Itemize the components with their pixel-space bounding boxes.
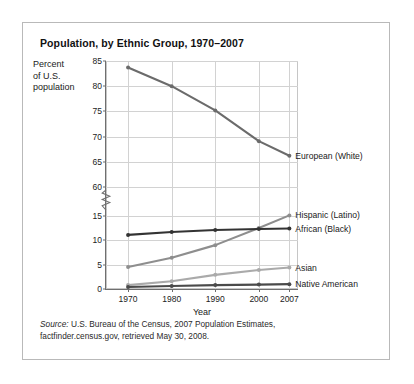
x-tick-label: 1980	[162, 294, 181, 304]
x-axis-spine	[105, 289, 298, 290]
series-line	[128, 268, 289, 286]
x-tick-mark	[289, 289, 290, 292]
y-tick-label: 80	[93, 81, 102, 91]
series-label: Native American	[295, 279, 358, 289]
series-line	[128, 68, 289, 156]
x-tick-label: 1970	[119, 294, 138, 304]
data-point	[257, 227, 261, 231]
source-prefix: Source:	[40, 319, 69, 329]
x-tick-label: 2007	[280, 294, 299, 304]
x-tick-mark	[215, 289, 216, 292]
data-point	[257, 283, 261, 287]
y-tick-label: 85	[93, 56, 102, 66]
y-axis-label-line-2: of U.S.	[33, 71, 93, 83]
data-point	[126, 265, 130, 269]
x-tick-label: 2000	[249, 294, 268, 304]
x-tick-mark	[259, 289, 260, 292]
y-axis-label: Percent of U.S. population	[33, 59, 93, 94]
data-point	[287, 266, 291, 270]
data-point	[213, 243, 217, 247]
data-point	[170, 279, 174, 283]
x-tick-mark	[172, 289, 173, 292]
y-tick-label: 70	[93, 132, 102, 142]
y-tick-label: 75	[93, 106, 102, 116]
series-lines	[106, 61, 298, 289]
series-line	[128, 229, 289, 235]
series-label: European (White)	[295, 151, 362, 161]
data-point	[213, 273, 217, 277]
data-point	[257, 139, 261, 143]
data-point	[170, 84, 174, 88]
x-axis-label: Year	[193, 307, 211, 317]
y-tick-label: 15	[93, 211, 102, 221]
plot-area: 858075706560151050 19701980199020002007 …	[106, 61, 298, 289]
data-point	[213, 108, 217, 112]
source-line-1: U.S. Bureau of the Census, 2007 Populati…	[69, 319, 276, 329]
x-tick-mark	[128, 289, 129, 292]
x-tick-label: 1990	[206, 294, 225, 304]
data-point	[287, 213, 291, 217]
data-point	[170, 256, 174, 260]
chart-card: Population, by Ethnic Group, 1970–2007 P…	[22, 22, 390, 360]
series-line	[128, 284, 289, 287]
data-point	[126, 66, 130, 70]
data-point	[257, 268, 261, 272]
series-label: Asian	[295, 263, 317, 273]
source-line-2: factfinder.census.gov, retrieved May 30,…	[40, 331, 209, 341]
data-point	[126, 285, 130, 289]
data-point	[170, 284, 174, 288]
page-title: Population, by Ethnic Group, 1970–2007	[40, 37, 244, 49]
y-tick-label: 0	[97, 284, 102, 294]
data-point	[213, 283, 217, 287]
y-axis-label-line-3: population	[33, 82, 93, 94]
source-note: Source: U.S. Bureau of the Census, 2007 …	[40, 319, 370, 342]
y-tick-label: 65	[93, 157, 102, 167]
series-line	[128, 215, 289, 267]
y-tick-label: 10	[93, 235, 102, 245]
data-point	[287, 154, 291, 158]
data-point	[126, 233, 130, 237]
data-point	[287, 227, 291, 231]
series-label: Hispanic (Latino)	[295, 210, 359, 220]
data-point	[213, 228, 217, 232]
y-tick-label: 5	[97, 260, 102, 270]
data-point	[287, 282, 291, 286]
y-axis-label-line-1: Percent	[33, 59, 93, 71]
data-point	[170, 230, 174, 234]
series-label: African (Black)	[295, 224, 351, 234]
